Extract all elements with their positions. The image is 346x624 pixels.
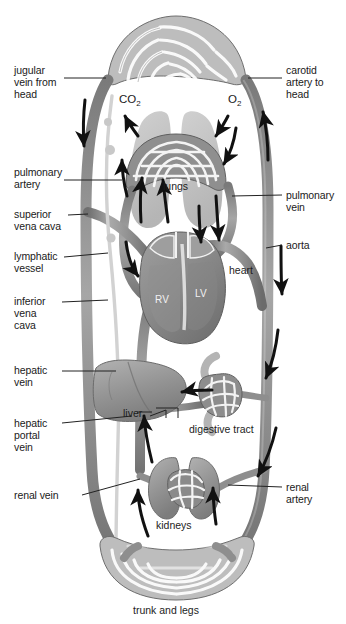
label-pulmonary-artery: pulmonary artery bbox=[14, 166, 62, 190]
label-inferior-vena-cava: inferior vena cava bbox=[14, 295, 45, 332]
label-right-ventricle: RV bbox=[155, 294, 169, 305]
label-liver: liver bbox=[123, 407, 142, 419]
head-capillary-bed bbox=[108, 16, 246, 85]
lymphatic-vessel-line bbox=[106, 96, 118, 552]
label-renal-vein: renal vein bbox=[14, 489, 59, 501]
label-left-ventricle: LV bbox=[195, 288, 207, 299]
lymph-node bbox=[105, 145, 115, 155]
label-heart: heart bbox=[229, 264, 253, 276]
label-jugular-vein: jugular vein from head bbox=[14, 64, 56, 101]
label-digestive-tract: digestive tract bbox=[189, 423, 254, 435]
label-lymphatic-vessel: lymphatic vessel bbox=[14, 250, 57, 274]
co2-subscript: 2 bbox=[136, 99, 140, 108]
label-carbon-dioxide: CO2 bbox=[119, 93, 141, 108]
cropped-caption-sliver bbox=[0, 0, 346, 6]
label-renal-artery: renal artery bbox=[286, 481, 312, 505]
lymph-node bbox=[104, 118, 112, 126]
label-hepatic-vein: hepatic vein bbox=[14, 364, 47, 388]
label-lungs: lungs bbox=[163, 180, 188, 192]
label-pulmonary-vein: pulmonary vein bbox=[286, 189, 334, 213]
trunk-legs-capillary-bed bbox=[100, 536, 254, 600]
co2-symbol: CO bbox=[119, 93, 136, 105]
circulatory-system-figure: jugular vein from head pulmonary artery … bbox=[0, 0, 346, 624]
lymph-node bbox=[106, 233, 115, 242]
label-superior-vena-cava: superior vena cava bbox=[14, 208, 61, 232]
label-kidneys: kidneys bbox=[156, 519, 192, 531]
label-aorta: aorta bbox=[286, 239, 309, 251]
digestive-tract-organ bbox=[199, 356, 242, 432]
kidneys-organ bbox=[149, 458, 220, 519]
label-hepatic-portal-vein: hepatic portal vein bbox=[14, 417, 47, 454]
o2-symbol: O bbox=[228, 93, 237, 105]
label-trunk-and-legs: trunk and legs bbox=[133, 604, 199, 616]
heart-organ bbox=[140, 232, 226, 344]
label-oxygen: O2 bbox=[228, 93, 241, 108]
o2-subscript: 2 bbox=[237, 99, 241, 108]
label-carotid-artery: carotid artery to head bbox=[286, 64, 324, 101]
